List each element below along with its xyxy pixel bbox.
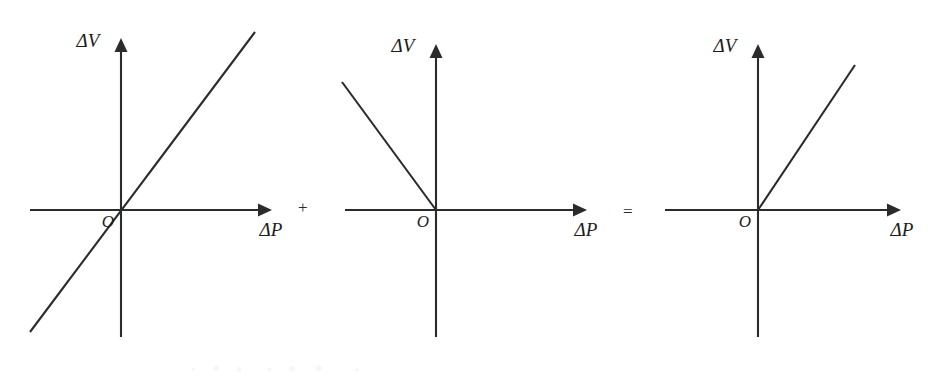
panel-left-svg: ΔV ΔP O bbox=[0, 0, 300, 377]
panel-left: ΔV ΔP O bbox=[0, 0, 300, 377]
figure-root: ΔV ΔP O + ΔV ΔP O = bbox=[0, 0, 934, 377]
y-axis-label: ΔV bbox=[76, 30, 102, 51]
y-axis-label: ΔV bbox=[391, 35, 417, 56]
origin-label: O bbox=[417, 212, 429, 231]
x-axis-arrow-icon bbox=[573, 204, 587, 217]
y-axis-arrow-icon bbox=[752, 44, 765, 58]
x-axis-arrow-icon bbox=[887, 204, 901, 217]
response-line-negative-branch bbox=[342, 82, 436, 210]
y-axis-arrow-icon bbox=[115, 38, 128, 52]
y-axis-label: ΔV bbox=[713, 35, 739, 56]
origin-label: O bbox=[102, 212, 114, 231]
response-line-positive-branch bbox=[758, 65, 855, 210]
origin-label: O bbox=[739, 212, 751, 231]
response-line-full bbox=[30, 32, 255, 332]
x-axis-label: ΔP bbox=[574, 219, 598, 240]
x-axis-label: ΔP bbox=[890, 219, 914, 240]
x-axis-arrow-icon bbox=[258, 204, 272, 217]
panel-middle: ΔV ΔP O bbox=[315, 0, 615, 377]
panel-right: ΔV ΔP O bbox=[637, 0, 934, 377]
equals-operator: = bbox=[623, 203, 633, 220]
plus-operator: + bbox=[298, 199, 308, 216]
x-axis-label: ΔP bbox=[259, 219, 283, 240]
panel-right-svg: ΔV ΔP O bbox=[637, 0, 934, 377]
panel-middle-svg: ΔV ΔP O bbox=[315, 0, 615, 377]
y-axis-arrow-icon bbox=[430, 44, 443, 58]
